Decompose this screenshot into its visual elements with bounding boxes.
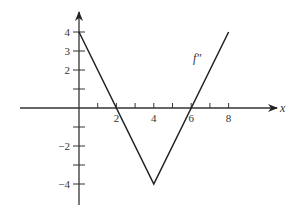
x-tick-label: 8	[226, 112, 232, 124]
x-tick-label: 6	[188, 112, 194, 124]
y-tick-label: 4	[65, 26, 71, 38]
x-axis-label: x	[279, 101, 286, 115]
chart-canvas: 2468 432−2−4 x f″	[0, 0, 296, 214]
curve-label: f″	[193, 51, 202, 65]
y-tick-label: −4	[58, 178, 70, 190]
x-ticks: 2468	[98, 103, 232, 124]
y-tick-label: 2	[65, 64, 71, 76]
x-tick-label: 2	[114, 112, 120, 124]
y-tick-label: −2	[58, 140, 70, 152]
y-tick-label: 3	[65, 45, 71, 57]
x-tick-label: 4	[151, 112, 157, 124]
